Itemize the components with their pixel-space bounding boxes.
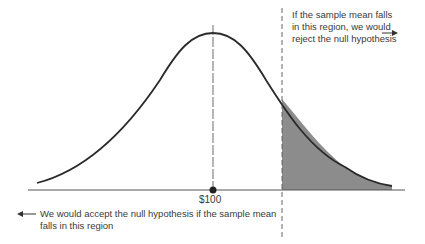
accept-region-label: We would accept the null hypothesis if t… [40,208,290,232]
mean-point [210,187,217,194]
normal-curve [37,33,392,186]
rejection-region [282,99,392,190]
reject-region-label: If the sample mean falls in this region,… [292,9,402,45]
left-arrow-icon [17,211,36,217]
mean-label: $100 [199,194,221,206]
